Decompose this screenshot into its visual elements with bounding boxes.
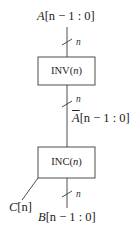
input-range: [n − 1 : 0]	[45, 9, 95, 23]
output-range: [n − 1 : 0]	[46, 210, 96, 224]
input-label: A[n − 1 : 0]	[37, 10, 95, 23]
intermediate-range: [n − 1 : 0]	[80, 111, 130, 125]
output-bus-width: n	[76, 190, 81, 200]
inv-name: INV	[51, 65, 70, 76]
intermediate-label: A[n − 1 : 0]	[72, 112, 130, 125]
output-label: B[n − 1 : 0]	[38, 211, 96, 224]
inc-name: INC	[51, 156, 69, 167]
carry-label: C[n]	[9, 201, 32, 214]
intermediate-signal: A	[72, 111, 80, 125]
input-signal: A	[37, 9, 45, 23]
inv-param: n	[73, 65, 78, 76]
inv-block-label: INV(n)	[38, 66, 95, 77]
intermediate-bus-width: n	[76, 95, 81, 105]
input-bus-width: n	[76, 38, 81, 48]
carry-range: [n]	[17, 200, 32, 214]
inc-param: n	[73, 156, 78, 167]
output-signal: B	[38, 210, 46, 224]
inc-block-label: INC(n)	[38, 157, 95, 168]
carry-wire	[22, 178, 38, 200]
